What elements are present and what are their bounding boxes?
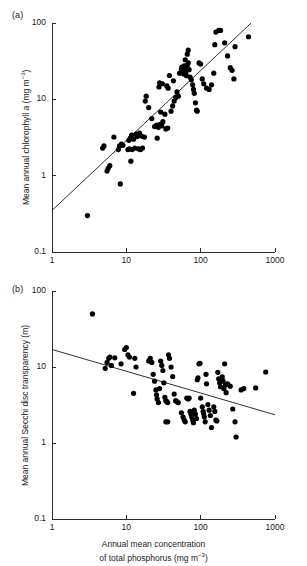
data-point	[198, 395, 203, 400]
data-point	[165, 400, 170, 405]
data-point	[190, 82, 195, 87]
x-axis-title-line1: Annual mean concentration	[102, 539, 206, 549]
data-point	[211, 404, 216, 409]
x-axis-title-exponent: −3	[198, 552, 205, 558]
data-point	[192, 91, 197, 96]
data-point	[143, 98, 148, 103]
data-point	[142, 135, 147, 140]
data-point	[230, 406, 235, 411]
x-axis-title-line2-post: )	[205, 553, 208, 563]
panel-b-xtick-100: 100	[181, 522, 221, 532]
data-point	[193, 412, 198, 417]
data-point	[191, 420, 196, 425]
data-point	[263, 369, 268, 374]
data-point	[218, 28, 223, 33]
data-point	[253, 385, 258, 390]
data-point	[160, 368, 165, 373]
data-point	[107, 354, 112, 359]
data-point	[167, 356, 172, 361]
data-point	[160, 81, 165, 86]
panel-a-plot	[0, 0, 307, 283]
data-point	[172, 392, 177, 397]
data-point	[232, 44, 237, 49]
data-point	[200, 404, 205, 409]
data-point	[186, 48, 191, 53]
data-point	[159, 363, 164, 368]
data-point	[133, 364, 138, 369]
data-point	[232, 419, 237, 424]
data-point	[176, 94, 181, 99]
data-point	[157, 386, 162, 391]
y-axis-title-italic-a: a	[21, 106, 31, 111]
data-point	[230, 68, 235, 73]
data-point	[165, 125, 170, 130]
data-point	[90, 311, 95, 316]
data-point	[158, 358, 163, 363]
panel-a-xtick-1000: 1000	[255, 255, 295, 265]
y-axis-title-exponent: −3	[20, 72, 26, 79]
data-point	[165, 419, 170, 424]
data-point	[152, 379, 157, 384]
data-point	[144, 94, 149, 99]
data-point	[195, 109, 200, 114]
data-point	[211, 71, 216, 76]
data-point	[231, 76, 236, 81]
data-point	[120, 143, 125, 148]
data-point	[200, 76, 205, 81]
data-point	[132, 356, 137, 361]
data-point	[149, 116, 154, 121]
panel-b-ytick-100: 100	[0, 285, 46, 295]
data-point	[202, 414, 207, 419]
data-point	[149, 360, 154, 365]
data-point	[168, 364, 173, 369]
data-point	[212, 409, 217, 414]
x-axis-title-line2-pre: of total phosphorus (mg m	[99, 553, 198, 563]
data-point	[131, 391, 136, 396]
data-point	[208, 413, 213, 418]
panel-a: (a) 100 10 1 0.1 1 10 100 1000 Mean annu…	[0, 0, 307, 283]
data-point	[161, 380, 166, 385]
data-point	[183, 57, 188, 62]
panel-b-xtick-1: 1	[32, 522, 72, 532]
data-point	[209, 82, 214, 87]
data-point	[209, 425, 214, 430]
data-points	[85, 28, 251, 218]
data-point	[187, 67, 192, 72]
data-point	[207, 87, 212, 92]
data-point	[160, 119, 165, 124]
data-point	[140, 145, 145, 150]
data-point	[111, 135, 116, 140]
data-point	[85, 213, 90, 218]
data-point	[198, 61, 203, 66]
panel-b-y-axis-title: Mean annual Secchi disc transparency (m)	[20, 324, 30, 485]
axis-spine	[52, 23, 275, 252]
data-point	[224, 390, 229, 395]
data-point	[212, 42, 217, 47]
data-point	[166, 86, 171, 91]
data-point	[107, 163, 112, 168]
data-point	[203, 419, 208, 424]
panel-a-xtick-100: 100	[181, 255, 221, 265]
data-point	[112, 355, 117, 360]
data-points	[90, 311, 268, 439]
data-point	[246, 34, 251, 39]
data-point	[168, 109, 173, 114]
data-point	[193, 100, 198, 105]
data-point	[151, 372, 156, 377]
data-point	[146, 105, 151, 110]
data-point	[225, 53, 230, 58]
y-axis-title-part1: Mean annual chlorophyll	[21, 110, 31, 205]
panel-b: (b) 100 10 1 0.1 1 10 100 1000 Mean annu…	[0, 283, 307, 566]
data-point	[201, 81, 206, 86]
data-point	[234, 434, 239, 439]
data-point	[127, 354, 132, 359]
data-point	[162, 112, 167, 117]
data-point	[118, 361, 123, 366]
panel-b-xtick-1000: 1000	[255, 522, 295, 532]
panel-a-xtick-10: 10	[106, 255, 146, 265]
data-point	[167, 73, 172, 78]
data-point	[189, 77, 194, 82]
data-point	[222, 40, 227, 45]
data-point	[205, 402, 210, 407]
panel-b-xtick-10: 10	[106, 522, 146, 532]
